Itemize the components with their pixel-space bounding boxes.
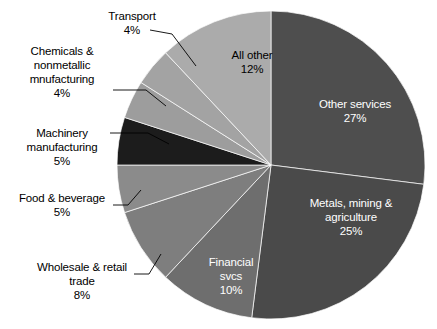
pie-slice-metals-mining-agriculture[interactable] [252, 165, 424, 319]
slice-label-food-beverage: Food & beverage 5% [9, 191, 115, 219]
figure-caption [8, 316, 433, 328]
slice-label-chemicals-nonmetallic: Chemicals & nonmetallic mnufacturing 4% [10, 44, 114, 100]
slice-label-transport: Transport 4% [84, 9, 180, 37]
slice-label-financial-svcs: Financial svcs 10% [196, 255, 266, 297]
slice-label-machinery-manufacturing: Machinery manufacturing 5% [14, 126, 110, 168]
slice-label-all-other: All other 12% [207, 48, 297, 76]
slice-label-wholesale-retail-trade: Wholesale & retail trade 8% [28, 260, 136, 302]
slice-label-metals-mining-agriculture: Metals, mining & agriculture 25% [283, 196, 419, 238]
pie-chart-figure: Other services 27% Metals, mining & agri… [0, 0, 437, 329]
slice-label-other-services: Other services 27% [292, 97, 418, 125]
